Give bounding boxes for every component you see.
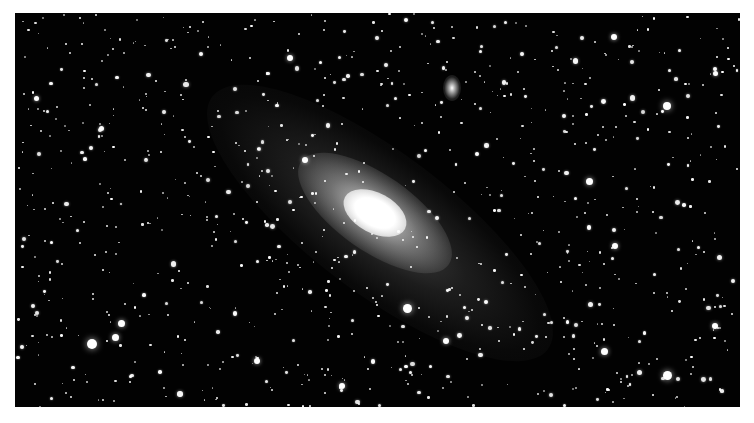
star: [572, 123, 574, 125]
star: [625, 187, 628, 190]
star: [710, 73, 712, 75]
star: [556, 35, 558, 37]
star: [615, 126, 617, 128]
star: [488, 326, 492, 330]
star: [266, 72, 268, 74]
star: [307, 374, 309, 376]
star: [178, 270, 180, 272]
star: [324, 20, 326, 22]
star: [133, 283, 134, 284]
star: [594, 342, 595, 343]
star: [216, 397, 218, 399]
star: [326, 123, 330, 127]
star: [371, 359, 375, 363]
star: [388, 13, 391, 15]
star: [485, 145, 487, 147]
star: [440, 321, 441, 322]
star: [109, 272, 110, 273]
star: [206, 178, 210, 182]
star: [479, 348, 481, 350]
star: [142, 107, 144, 109]
star: [435, 104, 436, 105]
star: [667, 163, 670, 166]
star: [376, 70, 378, 72]
star: [342, 78, 346, 82]
star: [92, 298, 94, 300]
star: [215, 215, 218, 218]
star: [566, 320, 570, 324]
star: [630, 60, 634, 64]
star: [426, 236, 429, 239]
star: [48, 300, 49, 301]
star: [731, 279, 735, 283]
star: [686, 94, 690, 98]
star: [51, 336, 53, 338]
star: [110, 198, 112, 200]
star: [337, 335, 340, 338]
star: [427, 396, 429, 398]
star: [276, 292, 278, 294]
star: [407, 383, 409, 385]
star: [465, 81, 467, 83]
star: [574, 197, 577, 200]
star: [73, 379, 75, 381]
star: [146, 73, 151, 78]
star: [287, 404, 289, 406]
star: [250, 25, 252, 27]
star: [676, 377, 680, 381]
star: [274, 313, 276, 315]
star: [249, 322, 251, 324]
star: [212, 387, 214, 389]
star: [587, 225, 592, 230]
star: [333, 259, 336, 262]
star: [449, 149, 451, 151]
star: [124, 159, 126, 161]
star: [642, 16, 643, 17]
star: [50, 241, 53, 244]
star: [442, 387, 444, 389]
star: [44, 208, 46, 210]
star: [659, 52, 660, 53]
star: [257, 80, 259, 82]
star: [163, 387, 165, 389]
star: [572, 290, 573, 291]
star: [685, 359, 687, 361]
star: [668, 69, 671, 72]
star: [219, 368, 221, 370]
star: [340, 389, 343, 392]
star: [477, 298, 480, 301]
star: [175, 179, 176, 180]
star: [678, 49, 681, 52]
star: [123, 86, 124, 87]
star: [429, 365, 432, 368]
star: [71, 162, 72, 163]
star: [353, 290, 355, 292]
star: [399, 117, 401, 119]
bright-star: [339, 383, 345, 389]
star: [721, 71, 723, 73]
star: [427, 63, 428, 64]
star: [215, 238, 218, 241]
star: [585, 142, 587, 144]
star: [520, 274, 522, 276]
star: [436, 40, 439, 43]
star: [484, 81, 485, 82]
star: [689, 205, 691, 207]
star: [316, 99, 319, 102]
star: [594, 41, 596, 43]
star: [719, 305, 722, 308]
star: [656, 113, 658, 115]
star: [652, 211, 654, 213]
star: [475, 152, 479, 156]
star: [648, 363, 649, 364]
star: [714, 306, 716, 308]
star: [83, 221, 85, 223]
star: [217, 224, 218, 225]
bright-star: [254, 358, 260, 364]
star: [37, 108, 39, 110]
star: [592, 357, 594, 359]
star: [212, 151, 214, 153]
star: [700, 38, 701, 39]
star: [622, 207, 624, 209]
star: [457, 333, 462, 338]
